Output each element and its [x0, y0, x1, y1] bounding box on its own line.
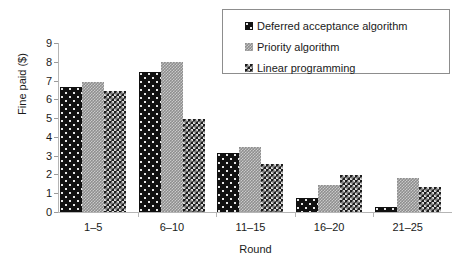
legend-item[interactable]: Deferred acceptance algorithm: [245, 19, 407, 33]
bar: [239, 147, 261, 212]
x-tick-mark: [138, 213, 139, 217]
x-tick-label: 21–25: [373, 221, 443, 233]
bar: [60, 87, 82, 212]
y-tick-label-8: 8: [34, 57, 52, 67]
legend-label: Linear programming: [257, 63, 355, 74]
y-axis-title: Fine paid ($): [16, 24, 28, 144]
bar: [161, 62, 183, 212]
y-tick-label-4: 4: [34, 132, 52, 142]
y-tick-label-0: 0: [34, 207, 52, 217]
bar-group: [59, 43, 138, 212]
x-tick-label: 11–15: [216, 221, 286, 233]
bar: [217, 153, 239, 212]
y-tick-label-2: 2: [34, 169, 52, 179]
bar: [261, 164, 283, 212]
y-tick-label-5: 5: [34, 113, 52, 123]
bar: [183, 119, 205, 212]
legend-label: Priority algorithm: [257, 42, 340, 53]
bar-group: [138, 43, 217, 212]
y-tick-label-7: 7: [34, 76, 52, 86]
bar: [375, 207, 397, 212]
legend: Deferred acceptance algorithmPriority al…: [222, 9, 450, 74]
x-tick-mark: [373, 213, 374, 217]
y-tick-label-1: 1: [34, 188, 52, 198]
legend-item[interactable]: Priority algorithm: [245, 40, 340, 54]
bar: [104, 91, 126, 212]
bar: [419, 187, 441, 212]
bar-chart: Fine paid ($) 0123456789 1–56–1011–1516–…: [0, 0, 458, 266]
legend-swatch-icon: [245, 22, 253, 30]
y-tick-label-3: 3: [34, 151, 52, 161]
x-tick-mark: [216, 213, 217, 217]
bar: [340, 175, 362, 212]
bar: [296, 198, 318, 212]
bar: [318, 185, 340, 212]
x-tick-label: 6–10: [137, 221, 207, 233]
x-axis-title: Round: [59, 243, 452, 255]
legend-item[interactable]: Linear programming: [245, 61, 355, 75]
x-tick-mark: [295, 213, 296, 217]
x-tick-label: 1–5: [58, 221, 128, 233]
bar: [139, 72, 161, 212]
x-axis-line: [58, 212, 452, 213]
x-tick-label: 16–20: [294, 221, 364, 233]
legend-label: Deferred acceptance algorithm: [257, 21, 407, 32]
legend-swatch-icon: [245, 64, 253, 72]
bar: [82, 82, 104, 213]
bar: [397, 178, 419, 212]
y-tick-label-6: 6: [34, 94, 52, 104]
legend-swatch-icon: [245, 43, 253, 51]
y-tick-label-9: 9: [34, 38, 52, 48]
